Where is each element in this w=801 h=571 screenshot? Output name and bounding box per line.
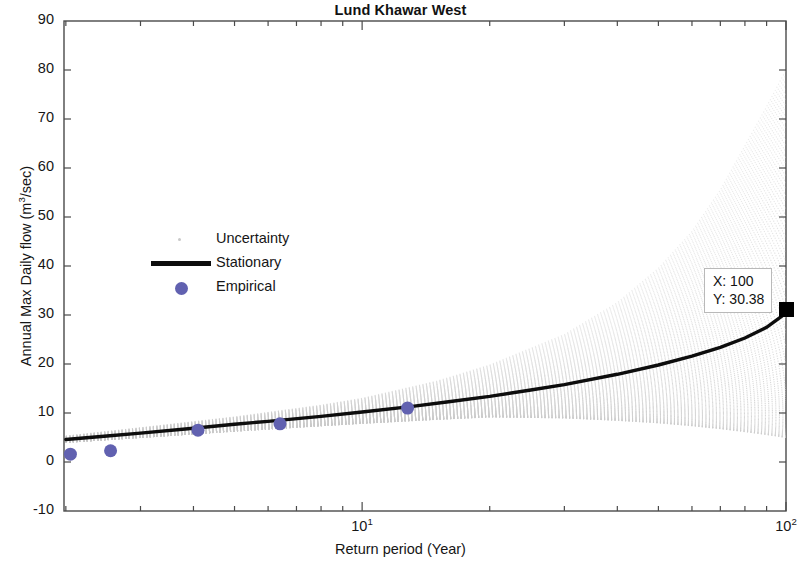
empirical-point [191,424,204,437]
legend-key-stationary [150,252,212,276]
y-axis-label-exponent: 3 [16,197,27,202]
legend-key-empirical [150,276,212,300]
x-tick-mantissa: 10 [351,518,367,534]
x-tick-mantissa: 10 [775,518,791,534]
y-axis-label: Annual Max Daily flow (m3/sec) [18,6,34,526]
legend-key-uncertainty [150,228,212,252]
empirical-point [273,417,286,430]
dot-icon [178,238,181,241]
x-tick-exponent: 2 [791,516,796,527]
legend-label: Uncertainty [216,230,289,246]
x-tick-label-10: 101 [332,518,392,534]
plot-area[interactable] [0,0,801,571]
empirical-point [64,448,77,461]
x-tick-label-100: 102 [756,518,801,534]
y-axis-label-tail: /sec) [18,166,34,197]
data-tip-y: Y: 30.38 [713,290,764,308]
legend-label: Empirical [216,278,276,294]
y-axis-label-base: Annual Max Daily flow (m [18,203,34,367]
data-tip-x: X: 100 [713,272,764,290]
legend-item-uncertainty[interactable]: Uncertainty [150,228,335,252]
circle-icon [175,282,188,295]
legend-item-stationary[interactable]: Stationary [150,252,335,276]
data-tip[interactable]: X: 100 Y: 30.38 [704,268,772,313]
legend-item-empirical[interactable]: Empirical [150,276,335,300]
line-icon [151,261,211,266]
legend-label: Stationary [216,254,281,270]
figure-canvas: Lund Khawar West -100102030405060708090 … [0,0,801,571]
empirical-point [104,444,117,457]
x-tick-exponent: 1 [367,516,372,527]
data-tip-marker[interactable] [779,302,794,317]
empirical-point [401,402,414,415]
legend: Uncertainty Stationary Empirical [150,228,335,302]
x-axis-label: Return period (Year) [0,541,801,557]
